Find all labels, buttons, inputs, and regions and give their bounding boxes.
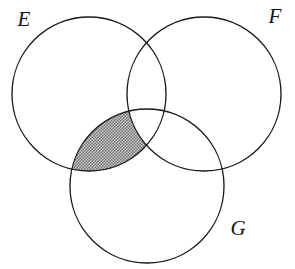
venn-diagram-canvas: E F G [0, 0, 295, 269]
venn-diagram-figure: E F G [0, 0, 295, 269]
set-label-f: F [268, 4, 282, 28]
set-label-e: E [17, 7, 31, 31]
set-label-g: G [230, 216, 245, 240]
